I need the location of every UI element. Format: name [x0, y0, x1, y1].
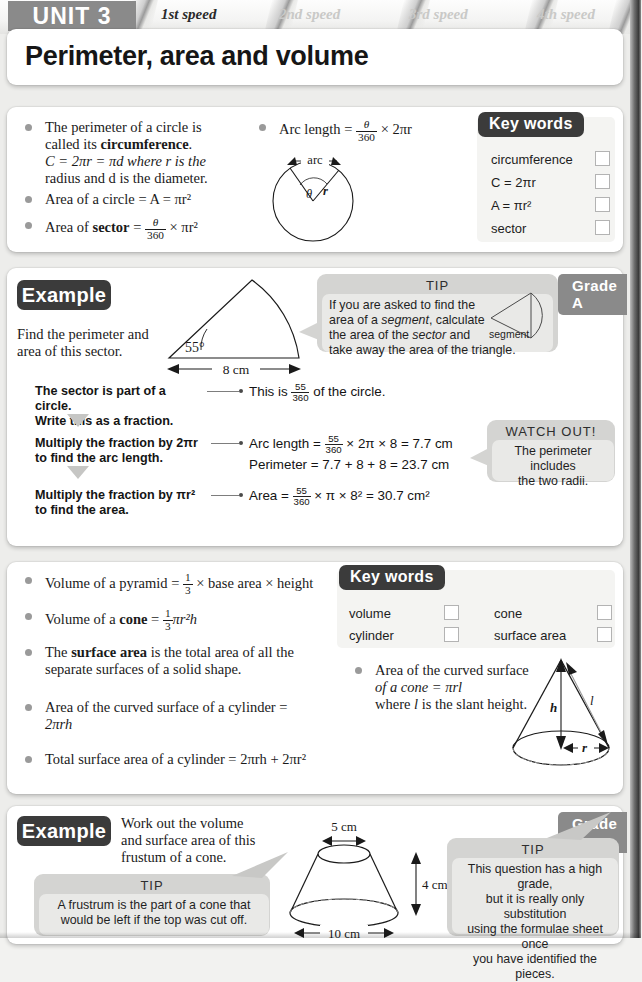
theta-diagram-label: θ	[306, 187, 312, 201]
cyl-line-1: Area of the curved surface of a cylinder…	[45, 699, 287, 715]
cone-pre: Volume of a	[45, 611, 119, 627]
key-word-checkbox[interactable]	[444, 627, 459, 642]
sa-word: surface area	[71, 644, 147, 660]
key-word-checkbox[interactable]	[595, 220, 610, 235]
tip-segment-word: segment	[381, 313, 429, 327]
step-3-line-2: to find the area.	[35, 503, 129, 517]
step-3-connector	[211, 495, 239, 496]
formula-card-circles: The perimeter of a circle is called its …	[7, 107, 623, 252]
tab-4th-speed[interactable]: 4th speed	[537, 6, 595, 23]
tip-sector-word: sector	[412, 328, 446, 342]
key-word-cylinder: cylinder	[349, 628, 394, 643]
step-2-result-line-2: Perimeter = 7.7 + 8 + 8 = 23.7 cm	[249, 457, 449, 472]
question-line-1: Work out the volume	[121, 815, 243, 831]
step-flow-arrow-2	[67, 466, 89, 479]
example-card-frustum: Example Work out the volume and surface …	[7, 806, 623, 944]
step-2-result-post: × 2π × 8 = 7.7 cm	[343, 436, 453, 451]
tip-right-title: TIP	[447, 842, 619, 857]
bullet-area-circle-text: Area of a circle = A = πr²	[45, 191, 191, 207]
tip-line-3a: the area of the	[329, 328, 412, 342]
key-word-checkbox[interactable]	[595, 197, 610, 212]
frustum-diagram: 5 cm 4 cm 10 cm	[270, 812, 450, 940]
tip-right-bubble-tail	[547, 812, 617, 842]
bullet-dot	[25, 124, 32, 131]
tip-left-line-2: would be left if the top was cut off.	[61, 913, 247, 927]
bullet-dot	[25, 613, 32, 620]
key-word-surface-area: surface area	[494, 628, 566, 643]
circle-sector-diagram: arc θ r	[265, 143, 375, 245]
tab-1st-speed[interactable]: 1st speed	[161, 6, 216, 23]
watch-out-bubble-tail	[470, 446, 489, 468]
bullet-line-2a: called its	[45, 136, 101, 152]
step-2-connector	[211, 443, 239, 444]
tip-line-3c: and	[446, 328, 470, 342]
step-3-result-post: × π × 8² = 30.7 cm²	[311, 488, 430, 503]
fraction-numerator: θ	[145, 217, 166, 230]
tab-3rd-speed[interactable]: 3rd speed	[409, 6, 468, 23]
bullet-total-cylinder: Total surface area of a cylinder = 2πrh …	[45, 751, 345, 768]
step-3-result-pre: Area =	[249, 488, 293, 503]
key-word-checkbox[interactable]	[595, 174, 610, 189]
key-word-checkbox[interactable]	[597, 605, 612, 620]
step-1-line-2: Write this as a fraction.	[35, 414, 173, 428]
theta-over-360-fraction: θ 360	[356, 119, 377, 143]
bullet-dot	[25, 222, 32, 229]
sa-line-2: separate surfaces of a solid shape.	[45, 661, 241, 677]
cone-diagram: h l r	[507, 650, 619, 778]
sector-base-label: 8 cm	[223, 362, 250, 377]
pyramid-post: × base area × height	[193, 575, 314, 591]
bullet-dot	[25, 196, 32, 203]
arc-length-equals: =	[344, 121, 352, 137]
watch-out-body: The perimeter includes the two radii.	[492, 440, 614, 481]
bullet-arc-length: Arc length = θ 360 × 2πr	[279, 119, 412, 143]
page-bottom-shadow	[0, 932, 641, 938]
fraction-55-360: 55360	[293, 486, 311, 507]
tab-2nd-speed[interactable]: 2nd speed	[279, 6, 340, 23]
cone-cs-line-3a: where	[375, 696, 414, 712]
key-word-volume: volume	[349, 606, 391, 621]
example-card-sector: Example Find the perimeter and area of t…	[7, 268, 623, 546]
sector-diagram: 55° 8 cm	[157, 274, 317, 380]
area-sector-equals: =	[133, 219, 141, 235]
cone-post: πr²h	[173, 611, 198, 627]
cone-word: cone	[119, 611, 147, 627]
example-tab-1: Example	[17, 280, 111, 310]
book-page-edge	[630, 0, 641, 938]
key-word-cone: cone	[494, 606, 522, 621]
tip-bubble-frustum: TIP A frustrum is the part of a cone tha…	[34, 874, 270, 936]
one-third-fraction: 13	[163, 608, 173, 632]
tip-bubble-segment: TIP If you are asked to find the area of…	[317, 274, 558, 352]
bullet-area-sector: Area of sector = θ 360 × πr²	[45, 217, 198, 241]
total-cyl-text: Total surface area of a cylinder = 2πrh …	[45, 751, 306, 767]
fraction-denominator: 360	[293, 497, 311, 507]
key-word-a-formula: A = πr²	[491, 198, 531, 213]
radius-diagram-label: r	[323, 184, 328, 198]
bullet-dot	[25, 756, 32, 763]
step-2-instruction: Multiply the fraction by 2πr to find the…	[35, 436, 210, 466]
area-sector-word: sector	[93, 219, 130, 235]
step-2-line-1: Multiply the fraction by 2πr	[35, 436, 198, 450]
sector-angle-label: 55°	[185, 340, 205, 355]
key-word-checkbox[interactable]	[597, 627, 612, 642]
step-3-line-1: Multiply the fraction by πr²	[35, 488, 195, 502]
frustum-height-label: 4 cm	[422, 877, 448, 892]
step-2-result: Arc length = 55360 × 2π × 8 = 7.7 cm Per…	[249, 434, 453, 474]
tip-right-line-1: This question has a high grade,	[468, 862, 602, 891]
key-word-checkbox[interactable]	[595, 151, 610, 166]
one-third-fraction: 13	[183, 572, 193, 596]
step-1-result-post: of the circle.	[309, 384, 385, 399]
tip-bubble-tail	[299, 320, 319, 342]
key-word-sector: sector	[491, 221, 526, 236]
tip-right-line-4: you have identified the pieces.	[473, 952, 597, 981]
step-1-result: This is 55360 of the circle.	[249, 382, 385, 403]
bullet-dot	[25, 649, 32, 656]
watch-out-bubble: WATCH OUT! The perimeter includes the tw…	[487, 420, 615, 482]
fraction-denominator: 360	[325, 445, 343, 455]
frustum-top-label: 5 cm	[331, 819, 357, 834]
grade-badge-1: Grade A	[558, 274, 627, 315]
page-title-card: Perimeter, area and volume	[7, 29, 623, 85]
bullet-area-circle: Area of a circle = A = πr²	[45, 191, 191, 208]
area-sector-post: × πr²	[170, 219, 198, 235]
step-2-connector-dot	[239, 441, 243, 445]
key-word-checkbox[interactable]	[444, 605, 459, 620]
